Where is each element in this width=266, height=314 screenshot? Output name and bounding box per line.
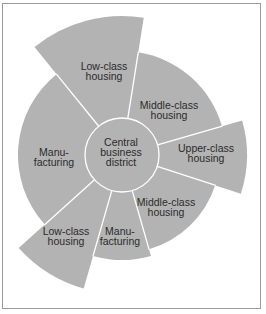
middle-class-housing-north-label: Middle-class housing [140, 100, 198, 120]
label-line: housing [81, 71, 128, 81]
label-line: housing [178, 153, 234, 163]
middle-class-housing-south-label: Middle-class housing [137, 197, 195, 217]
label-line: housing [137, 207, 195, 217]
manufacturing-west-label: Manu- facturing [34, 147, 74, 167]
central-business-district-label: Central business district [100, 137, 141, 167]
label-line: district [100, 157, 141, 167]
upper-class-housing-label: Upper-class housing [178, 143, 234, 163]
manufacturing-south-label: Manu- facturing [100, 226, 140, 246]
label-line: facturing [34, 157, 74, 167]
label-line: facturing [100, 236, 140, 246]
low-class-housing-north-label: Low-class housing [81, 61, 128, 81]
low-class-housing-south-label: Low-class housing [43, 226, 90, 246]
label-line: housing [140, 110, 198, 120]
label-line: housing [43, 236, 90, 246]
